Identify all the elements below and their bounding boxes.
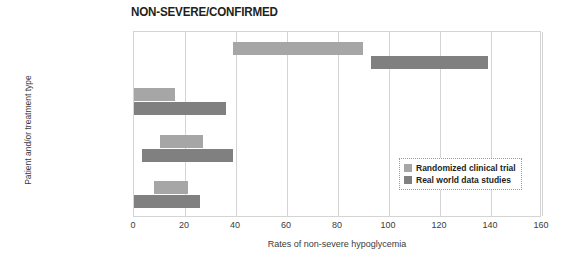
bar — [134, 88, 175, 101]
x-tick-label: 100 — [380, 220, 395, 230]
x-tick-label: 120 — [431, 220, 446, 230]
bar — [233, 42, 363, 55]
x-tick-label: 40 — [230, 220, 240, 230]
legend-item-rwd: Real world data studies — [404, 174, 516, 186]
x-tick-label: 140 — [482, 220, 497, 230]
x-tick-label: 60 — [281, 220, 291, 230]
legend-label: Real world data studies — [416, 175, 511, 185]
y-axis-title: Patient and/or treatment type — [23, 50, 33, 210]
x-axis-title: Rates of non-severe hypoglycemia — [133, 239, 541, 249]
chart-figure: NON-SEVERE/CONFIRMED Patient and/or trea… — [0, 0, 578, 264]
legend-label: Randomized clinical trial — [416, 163, 516, 173]
x-tick-label: 160 — [533, 220, 548, 230]
x-tick-label: 0 — [130, 220, 135, 230]
legend-swatch-icon — [404, 176, 412, 184]
bar — [154, 181, 187, 194]
gridline — [287, 32, 288, 216]
gridline — [542, 32, 543, 216]
chart-legend: Randomized clinical trial Real world dat… — [399, 158, 522, 190]
gridline — [338, 32, 339, 216]
chart-title: NON-SEVERE/CONFIRMED — [131, 5, 278, 19]
bar — [134, 195, 200, 208]
x-tick-label: 80 — [332, 220, 342, 230]
legend-item-rct: Randomized clinical trial — [404, 162, 516, 174]
x-tick-label: 20 — [179, 220, 189, 230]
bar — [134, 102, 226, 115]
gridline — [236, 32, 237, 216]
bar — [160, 135, 203, 148]
bar — [142, 149, 234, 162]
bar — [371, 56, 488, 69]
legend-swatch-icon — [404, 164, 412, 172]
